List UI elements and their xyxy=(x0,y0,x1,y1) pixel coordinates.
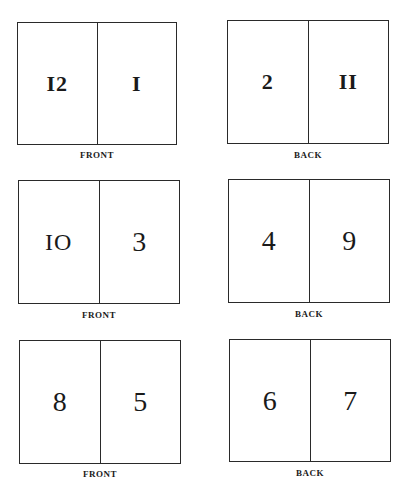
sheet-2-front: IO 3 xyxy=(18,180,180,304)
page-number-right: 5 xyxy=(101,341,181,463)
page-number-left: 8 xyxy=(20,341,101,463)
sheet-1-front: I2 I xyxy=(17,22,177,145)
side-label: FRONT xyxy=(60,469,140,479)
side-label: BACK xyxy=(269,309,349,319)
page-number-right: 3 xyxy=(100,181,180,303)
sheet-1-back: 2 II xyxy=(227,20,389,144)
side-label: FRONT xyxy=(59,310,139,320)
page-number-left: 2 xyxy=(228,21,309,143)
page-number-left: 6 xyxy=(230,340,311,461)
page-number-right: I xyxy=(98,23,177,144)
sheet-3-back: 6 7 xyxy=(229,339,391,462)
sheet-3-front: 8 5 xyxy=(19,340,181,464)
page-number-left: I2 xyxy=(18,23,98,144)
sheet-2-back: 4 9 xyxy=(228,179,390,303)
page-number-left: 4 xyxy=(229,180,310,302)
page-number-right: 9 xyxy=(310,180,390,302)
side-label: BACK xyxy=(270,468,350,478)
side-label: BACK xyxy=(268,150,348,160)
page-number-right: 7 xyxy=(311,340,391,461)
page-number-right: II xyxy=(309,21,389,143)
side-label: FRONT xyxy=(57,150,137,160)
page-number-left: IO xyxy=(19,181,100,303)
